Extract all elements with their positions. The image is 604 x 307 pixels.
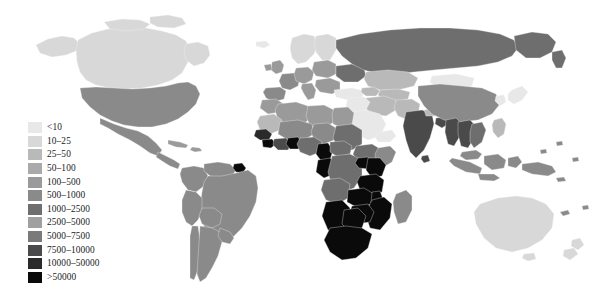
legend-label: 2500–5000 <box>47 217 90 228</box>
legend-row: 1000–2500 <box>28 203 132 217</box>
legend-swatch <box>28 245 42 256</box>
legend-swatch <box>28 136 42 147</box>
legend: <1010–2525–5050–100100–500500–10001000–2… <box>28 121 132 284</box>
legend-row: 50–100 <box>28 162 132 176</box>
legend-label: 500–1000 <box>47 190 85 201</box>
legend-label: 10–25 <box>47 136 71 147</box>
legend-label: 7500–10000 <box>47 245 95 256</box>
country-poland-baltics <box>312 60 336 78</box>
legend-label: 25–50 <box>47 149 71 160</box>
legend-row: 10000–50000 <box>28 257 132 271</box>
legend-swatch <box>28 217 42 228</box>
legend-row: >50000 <box>28 271 132 285</box>
legend-swatch <box>28 231 42 242</box>
legend-label: 50–100 <box>47 163 76 174</box>
legend-label: 10000–50000 <box>47 258 100 269</box>
legend-swatch <box>28 190 42 201</box>
country-fiji <box>582 205 589 210</box>
legend-label: 5000–7500 <box>47 231 90 242</box>
legend-row: 2500–5000 <box>28 216 132 230</box>
legend-label: 100–500 <box>47 177 81 188</box>
legend-swatch <box>28 122 42 133</box>
legend-row: 5000–7500 <box>28 230 132 244</box>
legend-swatch <box>28 177 42 188</box>
legend-label: <10 <box>47 122 62 133</box>
legend-row: <10 <box>28 121 132 135</box>
legend-row: 10–25 <box>28 135 132 149</box>
country-pacific-islet-2 <box>556 141 563 146</box>
legend-swatch <box>28 272 42 283</box>
legend-swatch <box>28 163 42 174</box>
legend-row: 100–500 <box>28 175 132 189</box>
legend-row: 500–1000 <box>28 189 132 203</box>
country-pacific-islet-1 <box>540 149 547 154</box>
country-mali-niger <box>278 120 314 140</box>
world-map-figure: <1010–2525–5050–100100–500500–10001000–2… <box>0 0 604 307</box>
legend-swatch <box>28 204 42 215</box>
legend-label: >50000 <box>47 272 76 283</box>
legend-label: 1000–2500 <box>47 204 90 215</box>
legend-row: 7500–10000 <box>28 243 132 257</box>
country-pacific-islet-3 <box>572 157 579 162</box>
legend-swatch <box>28 149 42 160</box>
country-solomon-islands <box>556 177 566 182</box>
legend-row: 25–50 <box>28 148 132 162</box>
legend-swatch <box>28 258 42 269</box>
